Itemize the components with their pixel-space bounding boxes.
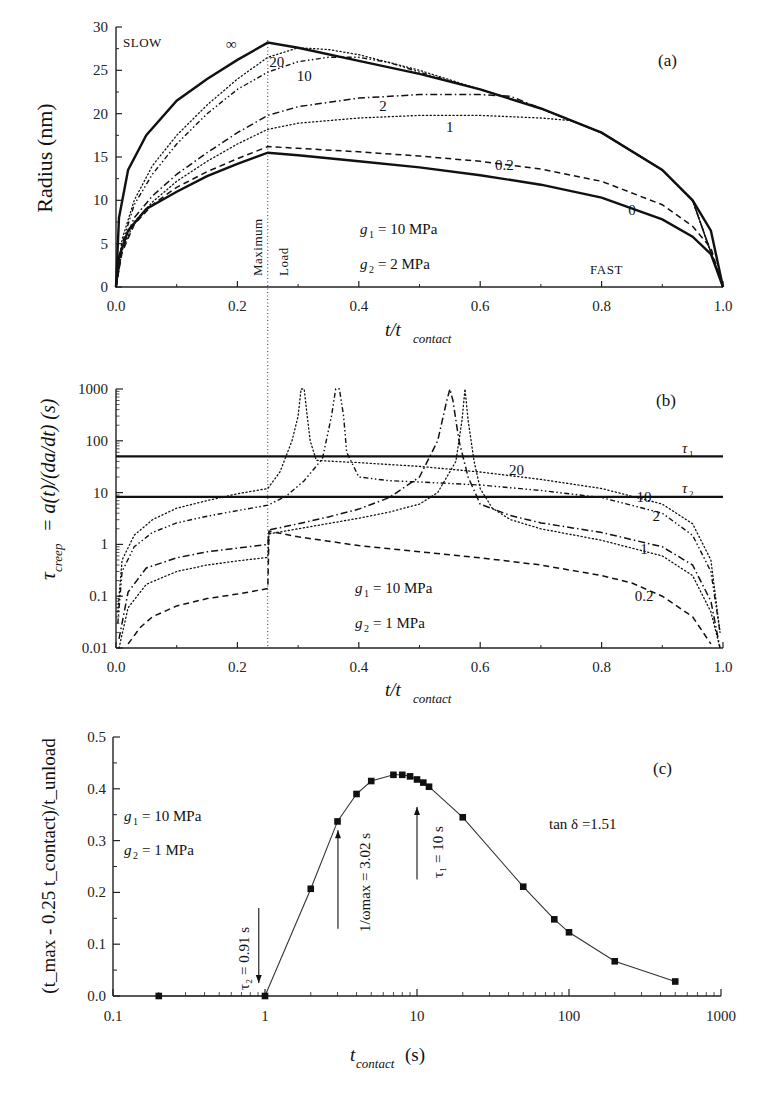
x-tick-label: 1.0 (714, 298, 733, 314)
data-point-marker (334, 818, 341, 825)
panel-c-tau2-arrow-label: τ₂ = 0.91 s (236, 927, 252, 990)
figure-canvas: 0.00.20.40.60.81.0051015202530 ∞2010210.… (0, 0, 766, 1094)
svg-text:= a(t)/(da/dt) (s): = a(t)/(da/dt) (s) (37, 398, 60, 532)
panel-c-letter: (c) (653, 759, 672, 778)
panel-b-x-title: t/t contact (385, 679, 452, 706)
y-tick-label: 20 (93, 106, 108, 122)
svg-text:2: 2 (689, 489, 694, 499)
svg-text:1: 1 (364, 588, 369, 599)
y-tick-label: 0.5 (87, 729, 106, 745)
svg-text:= 1 MPa: = 1 MPa (142, 842, 194, 858)
x-tick-label: 0.8 (592, 659, 611, 675)
svg-text:1: 1 (369, 229, 374, 240)
panel-c-y-title: (t_max - 0.25 t_contact)/t_unload (38, 738, 60, 994)
curve-label: 2 (379, 98, 387, 114)
panel-c-series (155, 772, 678, 1000)
series-line-10 (116, 57, 723, 287)
x-tick-label: 100 (558, 1008, 581, 1024)
panel-b-creep-time-chart: 0.00.20.40.60.81.00.010.11101001000 2010… (35, 330, 732, 706)
data-point-marker (611, 958, 618, 965)
panel-b-letter: (b) (656, 391, 676, 410)
data-point-marker (307, 885, 314, 892)
svg-text:t/t: t/t (385, 679, 402, 700)
arrow-head-icon (335, 830, 341, 838)
y-tick-label: 0.01 (82, 640, 108, 656)
x-tick-label: 0.0 (107, 659, 126, 675)
curve-label: 1 (446, 119, 454, 135)
series-line-∞ (116, 43, 723, 287)
y-tick-label: 10 (93, 192, 108, 208)
arrow-head-icon (256, 975, 262, 983)
y-tick-label: 0.4 (87, 781, 106, 797)
panel-c-peak-time-chart: 0.111010010000.00.10.20.30.40.5 (c) tan … (38, 729, 736, 1071)
svg-text:1: 1 (689, 449, 694, 459)
curve-label: 20 (509, 462, 524, 478)
x-tick-label: 0.1 (104, 1008, 123, 1024)
x-tick-label: 0.0 (107, 298, 126, 314)
svg-text:g: g (355, 580, 363, 596)
y-tick-label: 15 (93, 149, 108, 165)
x-tick-label: 0.4 (349, 659, 368, 675)
svg-text:= 10 MPa: = 10 MPa (378, 221, 438, 237)
svg-text:creep: creep (50, 543, 65, 572)
panel-c-tau1-arrow-label: τ₁ = 10 s (430, 826, 446, 878)
panel-b-y-title: τ creep = a(t)/(da/dt) (s) (35, 398, 65, 580)
curve-label: 0 (628, 202, 636, 218)
curve-label: 2 (652, 508, 660, 524)
panel-a-axes: 0.00.20.40.60.81.0051015202530 (93, 19, 732, 330)
svg-text:g: g (124, 808, 132, 824)
y-tick-label: 0.1 (87, 936, 106, 952)
data-point-marker (672, 978, 679, 985)
x-tick-label: 1000 (706, 1008, 736, 1024)
data-point-marker (420, 779, 427, 786)
data-point-marker (155, 993, 162, 1000)
y-tick-label: 5 (101, 236, 109, 252)
curve-label: 1 (640, 541, 648, 557)
panel-c-g1-annotation: g 1 = 10 MPa (124, 808, 202, 827)
svg-text:contact: contact (413, 331, 452, 346)
panel-a-y-title: Radius (nm) (32, 103, 57, 212)
panel-a-x-title: t/t contact (385, 319, 452, 346)
svg-text:= 2 MPa: = 2 MPa (378, 256, 430, 272)
y-tick-label: 1 (101, 536, 109, 552)
panel-b-curve-labels: 2010210.2 (509, 462, 660, 604)
y-tick-label: 0 (101, 279, 109, 295)
svg-text:g: g (360, 256, 368, 272)
curve-label: 0.2 (495, 157, 514, 173)
data-point-marker (353, 791, 360, 798)
svg-text:contact: contact (356, 1056, 395, 1071)
svg-text:g: g (124, 842, 132, 858)
x-tick-label: 0.2 (228, 298, 247, 314)
x-tick-label: 0.6 (471, 659, 490, 675)
curve-label: 10 (297, 68, 312, 84)
data-point-marker (399, 772, 406, 779)
x-tick-label: 1 (261, 1008, 269, 1024)
panel-c-x-title: t contact (s) (350, 1044, 425, 1071)
svg-text:1: 1 (133, 816, 138, 827)
svg-text:τ: τ (682, 480, 688, 496)
curve-label: 10 (637, 489, 652, 505)
panel-a-max-label: Maximum (250, 218, 265, 276)
panel-b-g2-annotation: g 2 = 1 MPa (355, 615, 425, 634)
y-tick-label: 10 (93, 485, 108, 501)
svg-text:g: g (360, 221, 368, 237)
x-tick-label: 10 (410, 1008, 425, 1024)
x-tick-label: 0.4 (349, 298, 368, 314)
y-tick-label: 0.2 (87, 884, 106, 900)
curve-label: 20 (269, 54, 284, 70)
data-point-marker (426, 783, 433, 790)
y-tick-label: 1000 (78, 381, 108, 397)
y-tick-label: 0.1 (89, 588, 108, 604)
series-line-1 (119, 389, 720, 648)
data-point-marker (551, 916, 558, 923)
panel-a-letter: (a) (658, 51, 677, 70)
panel-c-tan-delta: tan δ =1.51 (549, 816, 617, 832)
svg-text:2: 2 (369, 264, 374, 275)
panel-c-g2-annotation: g 2 = 1 MPa (124, 842, 194, 861)
panel-a-radius-chart: 0.00.20.40.60.81.0051015202530 ∞2010210.… (32, 19, 732, 346)
data-point-marker (262, 993, 269, 1000)
data-point-marker (368, 778, 375, 785)
panel-c-omega-arrow-label: 1/ωmax = 3.02 s (357, 833, 373, 932)
x-tick-label: 0.6 (471, 298, 490, 314)
data-point-marker (414, 776, 421, 783)
